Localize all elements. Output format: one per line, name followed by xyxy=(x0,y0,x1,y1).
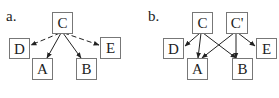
node-d-label: D xyxy=(14,41,25,57)
node-d-label: D xyxy=(168,41,179,57)
node-c-label: C xyxy=(57,15,67,31)
node-a: A xyxy=(33,59,53,80)
node-e: E xyxy=(257,39,277,59)
node-a-label: A xyxy=(37,61,48,77)
edge-cprime-to-e xyxy=(238,33,255,46)
node-c: C xyxy=(193,13,213,34)
panel-a: a. C D E A B xyxy=(6,8,121,80)
edge-cprime-to-a xyxy=(202,33,234,58)
edge-c-to-b xyxy=(63,33,81,58)
node-c-prime: C' xyxy=(227,13,248,34)
panel-b: b. C C' D E A B xyxy=(148,8,277,80)
node-c: C xyxy=(53,13,73,34)
edge-c-to-d xyxy=(185,33,200,46)
node-a-label: A xyxy=(192,61,203,77)
node-c-prime-label: C' xyxy=(231,15,244,31)
diagram-canvas: a. C D E A B b. xyxy=(0,0,279,98)
node-d: D xyxy=(10,39,30,59)
node-e-label: E xyxy=(262,41,271,57)
panel-b-label: b. xyxy=(148,8,159,24)
edge-c-to-e xyxy=(64,33,99,45)
node-e-label: E xyxy=(106,40,115,56)
node-a: A xyxy=(188,59,208,80)
node-c-label: C xyxy=(197,15,207,31)
node-d: D xyxy=(164,39,184,59)
node-b: B xyxy=(233,59,253,80)
node-b-label: B xyxy=(237,61,247,77)
node-b: B xyxy=(77,59,97,80)
panel-a-label: a. xyxy=(6,8,16,24)
edge-c-to-a xyxy=(47,33,61,58)
node-e: E xyxy=(101,38,121,59)
edge-c-to-a xyxy=(198,33,201,58)
node-b-label: B xyxy=(81,61,91,77)
edge-c-to-b xyxy=(203,33,236,58)
